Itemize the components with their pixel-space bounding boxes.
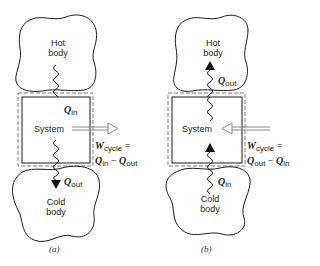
equals: =: [125, 140, 131, 151]
w-symbol: W: [247, 140, 256, 151]
rhs-a-sub: out: [254, 159, 265, 168]
q-sub: in: [71, 108, 77, 117]
w-sub: cycle: [104, 144, 122, 153]
hot-body-line2: body: [38, 48, 78, 58]
minus: −: [268, 155, 274, 166]
hot-body-label-b: Hot body: [193, 38, 233, 58]
system-label-b: System: [182, 124, 212, 134]
cold-body-line1: Cold: [36, 197, 76, 207]
q-sub: in: [225, 180, 231, 189]
rhs-a-sub: in: [102, 159, 108, 168]
caption-a: (a): [49, 244, 60, 254]
arrow-up-icon: [205, 61, 215, 70]
cold-body-line2: body: [190, 204, 230, 214]
rhs-b-sub: in: [283, 159, 289, 168]
hot-body-line2: body: [193, 48, 233, 58]
arrow-down-icon: [51, 180, 61, 189]
work-label-b: Wcycle = Qout − Qin: [247, 140, 289, 170]
heat-out-label-b: Qout: [218, 75, 236, 88]
heat-in-label-a: Qin: [64, 104, 77, 117]
rhs-b-sub: out: [126, 159, 137, 168]
cold-body-label-b: Cold body: [190, 194, 230, 214]
equals: =: [277, 140, 283, 151]
hot-body-line1: Hot: [193, 38, 233, 48]
cold-body-line2: body: [36, 207, 76, 217]
q-sub: out: [225, 79, 236, 88]
w-sub: cycle: [256, 144, 274, 153]
heat-out-label-a: Qout: [64, 176, 82, 189]
w-symbol: W: [95, 140, 104, 151]
system-label-a: System: [34, 124, 64, 134]
cold-body-line1: Cold: [190, 194, 230, 204]
work-label-a: Wcycle = Qin − Qout: [95, 140, 137, 170]
work-arrow-out-icon: [108, 123, 118, 134]
hot-body-label-a: Hot body: [38, 38, 78, 58]
caption-b: (b): [201, 244, 212, 254]
minus: −: [111, 155, 117, 166]
heat-in-label-b: Qin: [218, 176, 231, 189]
hot-body-line1: Hot: [38, 38, 78, 48]
cold-body-label-a: Cold body: [36, 197, 76, 217]
q-sub: out: [71, 180, 82, 189]
